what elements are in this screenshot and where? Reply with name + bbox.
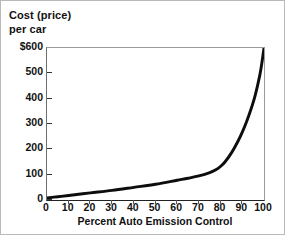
- x-axis-tick-mark: [133, 200, 134, 204]
- chart-figure: Cost (price) per car 0100200300400500$60…: [0, 0, 285, 235]
- x-axis-tick-labels: 0102030405060708090100: [1, 1, 285, 235]
- x-axis-tick-mark: [198, 200, 199, 204]
- x-axis-tick-mark: [220, 200, 221, 204]
- x-axis-tick-mark: [155, 200, 156, 204]
- x-axis-tick-mark: [241, 200, 242, 204]
- x-axis-tick-mark: [89, 200, 90, 204]
- x-axis-tick-mark: [111, 200, 112, 204]
- x-axis-tick-mark: [176, 200, 177, 204]
- x-axis-title: Percent Auto Emission Control: [46, 215, 264, 227]
- x-axis-tick-mark: [68, 200, 69, 204]
- x-axis-tick-label: 100: [254, 201, 272, 213]
- x-axis-tick-label: 0: [43, 201, 49, 213]
